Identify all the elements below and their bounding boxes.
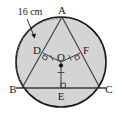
center-point-dot: [59, 63, 63, 67]
point-label-C: C: [105, 83, 112, 95]
point-label-F: F: [83, 44, 89, 56]
geometry-canvas: 16 cm A B C D F E O: [0, 0, 118, 119]
geometry-figure: 16 cm A B C D F E O: [0, 0, 118, 119]
dimension-label-16cm: 16 cm: [18, 6, 43, 17]
point-label-O: O: [57, 51, 65, 63]
point-label-D: D: [33, 44, 41, 56]
point-label-A: A: [58, 4, 66, 16]
point-label-E: E: [58, 90, 65, 102]
point-label-B: B: [9, 83, 16, 95]
